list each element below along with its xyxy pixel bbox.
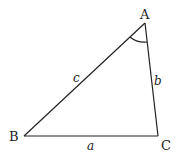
triangle-diagram: A B C c b a [0, 0, 176, 162]
vertex-label-c: C [161, 138, 171, 153]
vertex-label-b: B [9, 129, 19, 144]
angle-a-arc [130, 37, 147, 42]
side-label-b: b [154, 74, 162, 88]
vertex-label-a: A [139, 7, 150, 22]
side-c-line [24, 23, 145, 136]
side-label-c: c [73, 71, 80, 85]
side-label-a: a [87, 139, 94, 153]
